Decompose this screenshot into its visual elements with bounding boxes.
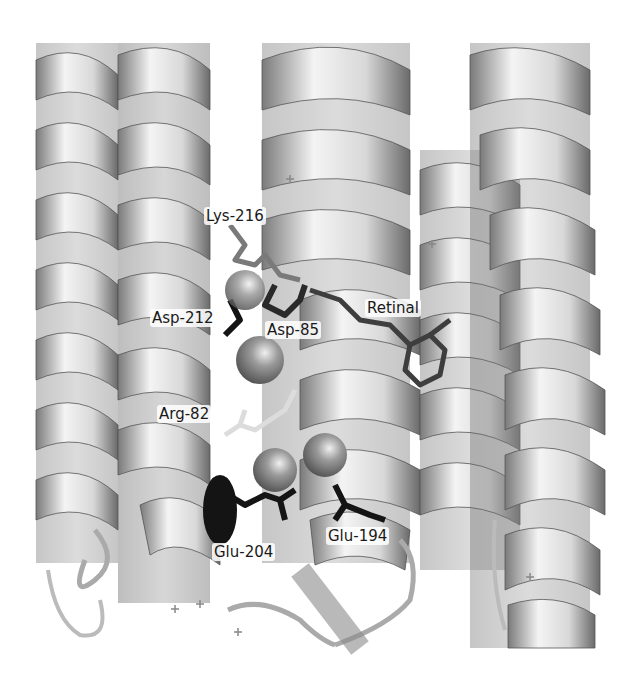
helix-1 — [36, 43, 118, 636]
helix-5 — [470, 43, 605, 648]
label-retinal: Retinal — [365, 299, 421, 317]
label-arg-82: Arg-82 — [157, 405, 211, 423]
label-glu-194: Glu-194 — [326, 527, 389, 545]
label-glu-204: Glu-204 — [212, 543, 275, 561]
label-asp-85: Asp-85 — [265, 321, 321, 339]
helix-bundle-illustration — [0, 0, 622, 684]
protein-structure-figure: Lys-216 Asp-212 Asp-85 Retinal Arg-82 Gl… — [0, 0, 622, 684]
label-lys-216: Lys-216 — [204, 207, 266, 225]
label-asp-212: Asp-212 — [150, 309, 216, 327]
